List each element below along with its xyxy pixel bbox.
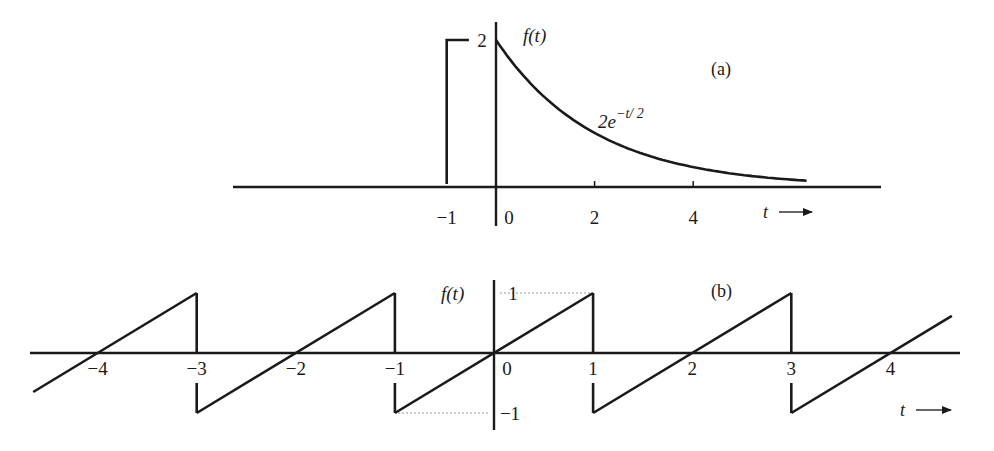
panel-label-a: (a) xyxy=(711,59,731,80)
y-axis-label-a: f(t) xyxy=(523,25,546,47)
x-axis-label-b: t xyxy=(900,400,906,420)
y-axis-label-b: f(t) xyxy=(441,283,464,305)
sawtooth-ramp xyxy=(791,316,952,413)
panel-b: −4−3−2−1012341−1 f(t) (b) t xyxy=(30,280,960,430)
y-tick-label-b: −1 xyxy=(500,403,520,424)
panel-a: −10242 f(t) (a) 2e−t/ 2 t xyxy=(233,22,881,228)
x-tick-label-a: 0 xyxy=(504,207,514,228)
x-tick-label-b: 0 xyxy=(502,358,512,379)
x-tick-label-b: −4 xyxy=(87,358,108,379)
x-tick-label-b: −1 xyxy=(385,358,405,379)
curve-annotation: 2e−t/ 2 xyxy=(598,106,644,132)
tick-labels-a: −10242 xyxy=(437,30,699,228)
x-axis-label-a: t xyxy=(763,202,769,222)
y-tick-label-b: 1 xyxy=(508,283,518,304)
x-tick-label-a: 4 xyxy=(688,207,698,228)
x-tick-label-b: 1 xyxy=(588,358,598,379)
sawtooth-ramp xyxy=(33,293,197,392)
x-tick-label-b: 2 xyxy=(687,358,697,379)
x-tick-label-b: 3 xyxy=(787,358,797,379)
figure: −10242 f(t) (a) 2e−t/ 2 t −4−3−2−1012341… xyxy=(0,0,994,451)
exponential-curve xyxy=(496,40,807,181)
panel-label-b: (b) xyxy=(711,281,732,302)
x-tick-label-b: −2 xyxy=(286,358,306,379)
annotation-exponent: −t/ 2 xyxy=(616,106,644,121)
x-tick-label-a: −1 xyxy=(437,207,457,228)
x-tick-label-b: −3 xyxy=(187,358,207,379)
pulse-edge xyxy=(447,40,469,184)
annotation-coef: 2e xyxy=(598,111,616,132)
y-tick-label-a: 2 xyxy=(477,30,487,51)
x-tick-label-a: 2 xyxy=(590,207,600,228)
x-tick-label-b: 4 xyxy=(886,358,896,379)
